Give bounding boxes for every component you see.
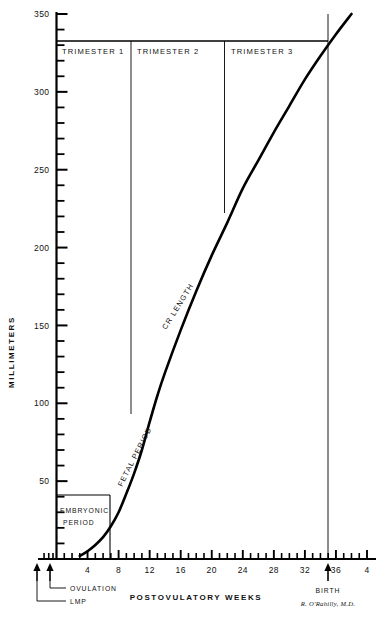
y-tick-label: 300 <box>34 87 49 97</box>
lmp-arrow-icon <box>33 563 40 581</box>
y-tick-group <box>57 14 68 543</box>
embryonic-period-box: EMBRYONIC PERIOD <box>57 495 111 559</box>
x-tick-label: 20 <box>207 565 217 575</box>
cr-length-growth-chart: 50100150200250300350 48121620242832364 T… <box>0 0 379 620</box>
lmp-leader-line <box>37 581 66 601</box>
lmp-label: LMP <box>70 598 87 605</box>
birth-label: BIRTH <box>316 587 341 594</box>
y-tick-label-group: 50100150200250300350 <box>34 9 49 486</box>
x-tick-label: 24 <box>238 565 248 575</box>
author-credit: R. O'Rahilly, M.D. <box>300 600 355 607</box>
trimester-1-label: TRIMESTER 1 <box>62 47 124 56</box>
x-tick-label: 28 <box>269 565 279 575</box>
x-tick-label: 32 <box>300 565 310 575</box>
x-tick-label: 16 <box>176 565 186 575</box>
trimester-3-label: TRIMESTER 3 <box>231 47 293 56</box>
x-tick-label: 4 <box>364 565 369 575</box>
curve-annotations: FETAL PERIOD CR LENGTH <box>116 282 196 488</box>
y-tick-label: 250 <box>34 165 49 175</box>
axis-lines <box>38 12 376 560</box>
y-tick-label: 200 <box>34 243 49 253</box>
bottom-markers: OVULATION LMP <box>33 563 116 605</box>
x-tick-label: 12 <box>145 565 155 575</box>
ovulation-leader-line <box>50 581 66 588</box>
y-tick-label: 100 <box>34 398 49 408</box>
trimester-labels: TRIMESTER 1 TRIMESTER 2 TRIMESTER 3 <box>62 47 293 56</box>
fetal-period-label: FETAL PERIOD <box>116 425 154 488</box>
figure-root: 50100150200250300350 48121620242832364 T… <box>0 0 379 620</box>
x-tick-group <box>44 550 367 559</box>
embryonic-period-label-line2: PERIOD <box>63 519 94 526</box>
y-tick-label: 150 <box>34 321 49 331</box>
y-tick-label: 350 <box>34 9 49 19</box>
embryonic-period-label-line1: EMBRYONIC <box>60 507 109 514</box>
y-tick-label: 50 <box>39 476 49 486</box>
x-tick-label: 4 <box>85 565 90 575</box>
x-tick-label: 8 <box>116 565 121 575</box>
y-axis-title: MILLIMETERS <box>7 316 16 388</box>
ovulation-label: OVULATION <box>70 585 117 592</box>
trimester-2-label: TRIMESTER 2 <box>137 47 199 56</box>
ovulation-arrow-icon <box>46 563 53 581</box>
x-tick-label: 36 <box>331 565 341 575</box>
x-axis-title: POSTOVULATORY WEEKS <box>130 593 263 602</box>
